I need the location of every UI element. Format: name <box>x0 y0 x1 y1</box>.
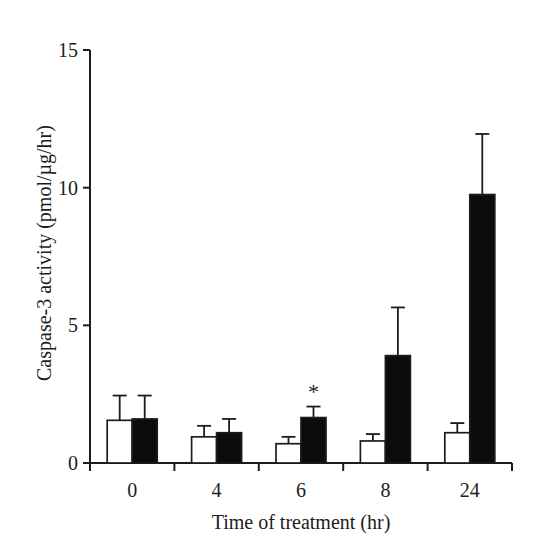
bar-filled-6hr <box>301 418 326 463</box>
x-category-label-8: 8 <box>380 479 390 501</box>
bar-filled-0hr <box>132 419 157 463</box>
bar-open-8hr <box>360 441 385 463</box>
x-category-label-24: 24 <box>460 479 480 501</box>
x-category-label-4: 4 <box>212 479 222 501</box>
bar-open-24hr <box>445 433 470 463</box>
y-axis-title: Caspase-3 activity (pmol/µg/hr) <box>31 103 57 403</box>
caspase-activity-figure: 051015046824* Caspase-3 activity (pmol/µ… <box>0 0 541 555</box>
y-tick-label-5: 5 <box>68 314 78 336</box>
x-category-label-0: 0 <box>127 479 137 501</box>
x-axis-title: Time of treatment (hr) <box>101 511 501 534</box>
bar-open-0hr <box>107 420 132 463</box>
y-tick-label-0: 0 <box>68 452 78 474</box>
bar-filled-4hr <box>217 433 242 463</box>
y-tick-label-10: 10 <box>58 177 78 199</box>
bar-open-4hr <box>192 437 217 463</box>
y-tick-label-15: 15 <box>58 39 78 61</box>
x-category-label-6: 6 <box>296 479 306 501</box>
bar-chart-canvas: 051015046824* <box>0 0 541 555</box>
bar-filled-24hr <box>470 195 495 463</box>
significance-asterisk: * <box>308 379 319 404</box>
bar-open-6hr <box>276 444 301 463</box>
bar-filled-8hr <box>385 356 410 463</box>
